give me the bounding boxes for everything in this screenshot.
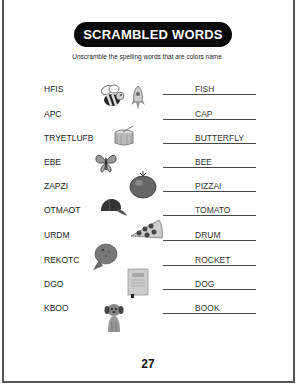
answer-line [163, 94, 256, 95]
answer-line [163, 240, 256, 241]
answer-line [163, 265, 256, 266]
answer-line [163, 289, 256, 290]
butterfly-icon [94, 152, 118, 174]
answer-line [163, 143, 256, 144]
answer-word: PIZZAI [195, 181, 221, 191]
scrambled-word: URDM [44, 230, 70, 240]
answer-word: ROCKET [195, 255, 230, 265]
cap-icon [98, 196, 128, 218]
page-title: SCRAMBLED WORDS [74, 22, 232, 47]
scrambled-word: KBOO [44, 303, 69, 313]
word-row: APC CAP [0, 108, 296, 128]
scrambled-word: OTMAOT [44, 205, 80, 215]
scrambled-word: DGO [44, 279, 63, 289]
scrambled-word: TRYETLUFB [44, 133, 93, 143]
scrambled-word: REKOTC [44, 255, 79, 265]
scrambled-word: EBE [44, 157, 61, 167]
scrambled-word: APC [44, 109, 61, 119]
word-row: HFIS FISH [0, 83, 296, 103]
page-number: 27 [0, 357, 296, 371]
answer-word: BOOK [195, 303, 220, 313]
bee-icon [98, 83, 128, 111]
word-row: KBOO BOOK [0, 302, 296, 322]
book-icon [127, 268, 149, 298]
answer-word: DRUM [195, 230, 221, 240]
fish-icon [91, 242, 119, 274]
answer-line [163, 313, 256, 314]
word-row: TRYETLUFB BUTTERFLY [0, 132, 296, 152]
answer-line [163, 191, 256, 192]
drum-icon [113, 125, 135, 147]
answer-word: CAP [195, 109, 212, 119]
scrambled-word: ZAPZI [44, 181, 68, 191]
scrambled-word: HFIS [44, 84, 63, 94]
answer-word: FISH [195, 84, 214, 94]
pizza-icon [129, 218, 165, 240]
answer-word: BUTTERFLY [195, 133, 244, 143]
answer-line [163, 167, 256, 168]
tomato-icon [128, 170, 158, 200]
answer-word: DOG [195, 279, 214, 289]
answer-line [163, 119, 256, 120]
answer-word: TOMATO [195, 205, 230, 215]
dog-icon [103, 302, 125, 334]
instructions: Unscramble the spelling words that are c… [0, 53, 296, 60]
rocket-icon [131, 85, 145, 111]
answer-word: BEE [195, 157, 212, 167]
answer-line [163, 215, 256, 216]
